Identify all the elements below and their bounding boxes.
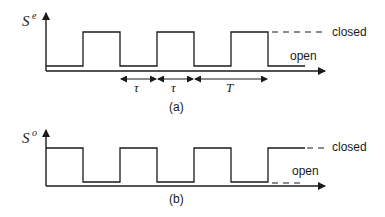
panel-b-y-label-superscript: o: [32, 127, 37, 138]
panel-a-signal: [46, 32, 305, 66]
panel-a-open-label: open: [290, 49, 317, 63]
tau-label-2: τ: [171, 80, 177, 95]
panel-a-closed-label: closed: [332, 25, 367, 39]
panel-b-closed-label: closed: [332, 140, 367, 154]
panel-b-signal: [46, 148, 305, 182]
panel-a: S e closed open τ τ T (a): [22, 10, 367, 114]
panel-b: S o closed open (b): [22, 127, 367, 206]
period-label: T: [226, 80, 234, 95]
panel-a-caption: (a): [169, 100, 184, 114]
panel-b-y-label: S: [22, 130, 30, 146]
panel-a-y-label: S: [22, 13, 30, 29]
tau-label-1: τ: [134, 80, 140, 95]
panel-b-open-label: open: [292, 164, 319, 178]
timing-diagram: S e closed open τ τ T (a) S o closed ope…: [0, 0, 385, 217]
panel-a-y-label-superscript: e: [32, 10, 37, 21]
panel-b-caption: (b): [169, 192, 184, 206]
